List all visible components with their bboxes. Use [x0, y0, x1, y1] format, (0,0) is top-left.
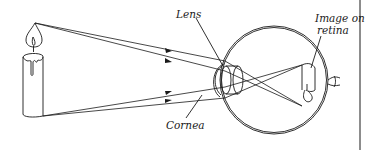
retina-image: [302, 64, 315, 102]
image-on-retina-label-line1: Image on: [314, 12, 365, 24]
lens-leader-line: [196, 18, 223, 66]
lens-label: Lens: [175, 8, 202, 20]
eye-optics-diagram: Lens Cornea Image on retina: [0, 0, 372, 153]
image-on-retina-label-line2: retina: [317, 24, 349, 36]
cornea-leader-line: [186, 95, 202, 118]
optic-nerve: [328, 76, 340, 87]
light-rays: [35, 23, 302, 116]
cornea-label: Cornea: [166, 119, 205, 131]
lens: [221, 66, 243, 94]
eyeball: [220, 26, 328, 134]
image-leader-line: [311, 36, 321, 68]
candle-icon: [23, 23, 43, 117]
